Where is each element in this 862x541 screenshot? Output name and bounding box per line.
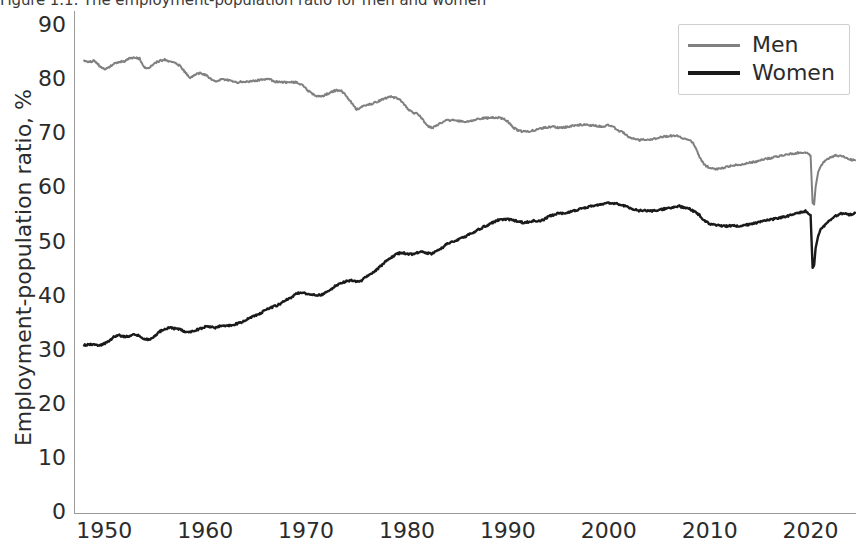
x-tick-label: 1980: [362, 518, 452, 541]
x-tick-label: 2020: [766, 518, 856, 541]
y-tick-label: 0: [0, 499, 66, 524]
data-series-group: [84, 57, 855, 346]
legend-label-men: Men: [752, 34, 798, 56]
x-tick-label: 2010: [665, 518, 755, 541]
x-tick-label: 1950: [59, 518, 149, 541]
y-tick-label: 10: [0, 445, 66, 470]
y-tick-label: 60: [0, 174, 66, 199]
legend-item-men: Men: [688, 31, 840, 59]
series-line-women: [84, 202, 855, 345]
y-tick-label: 30: [0, 337, 66, 362]
y-tick-label: 50: [0, 229, 66, 254]
x-tick-label: 1990: [463, 518, 553, 541]
y-tick-label: 40: [0, 283, 66, 308]
y-tick-label: 90: [0, 12, 66, 37]
y-tick-label: 80: [0, 66, 66, 91]
chart-legend: Men Women: [678, 24, 850, 95]
legend-label-women: Women: [752, 62, 835, 84]
legend-swatch-women: [688, 71, 740, 75]
figure-container: Figure 1.1: The employment-population ra…: [0, 0, 862, 541]
x-tick-label: 2000: [564, 518, 654, 541]
legend-swatch-men: [688, 44, 740, 47]
y-axis-label: Employment-population ratio, %: [11, 33, 36, 503]
x-tick-label: 1970: [261, 518, 351, 541]
y-tick-label: 70: [0, 120, 66, 145]
legend-item-women: Women: [688, 59, 840, 87]
x-tick-label: 1960: [160, 518, 250, 541]
y-tick-label: 20: [0, 391, 66, 416]
chart-title: Figure 1.1: The employment-population ra…: [0, 0, 862, 9]
